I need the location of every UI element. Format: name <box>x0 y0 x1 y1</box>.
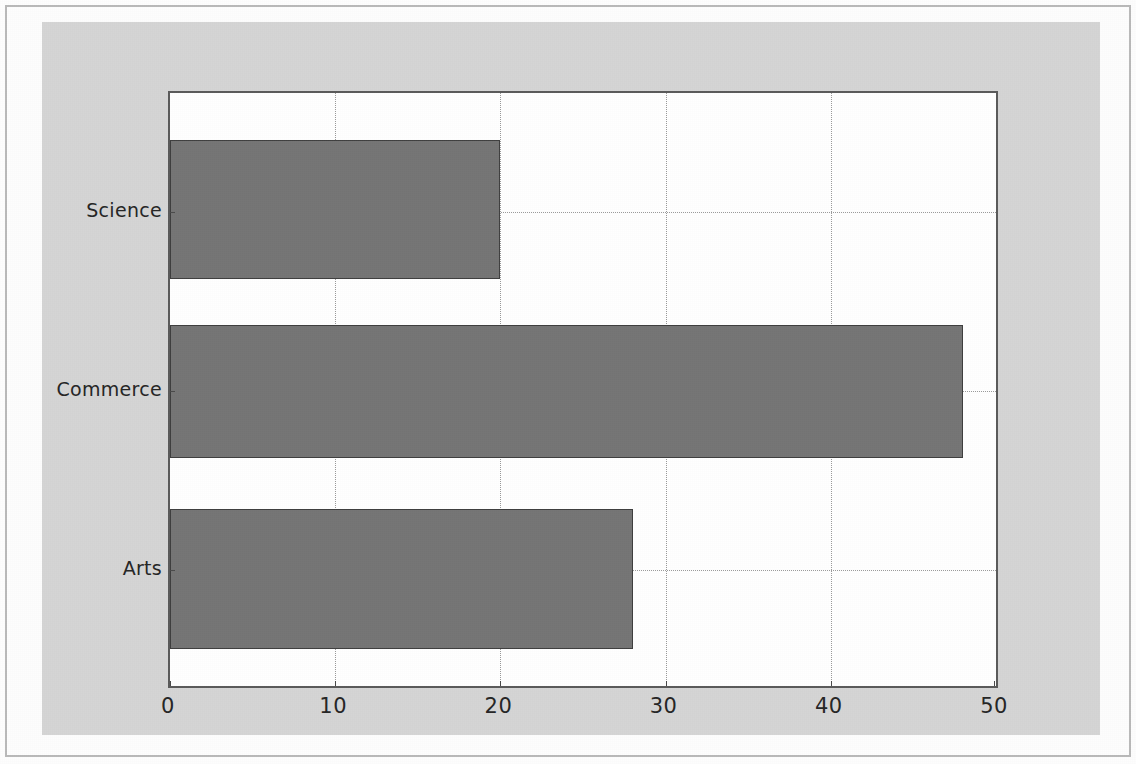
ytick-label-commerce: Commerce <box>56 378 162 400</box>
bar-arts <box>170 509 633 649</box>
xtick-label-10: 10 <box>319 694 347 718</box>
chart-figure: 0 10 20 30 40 50 Science Commerce Arts <box>42 22 1100 735</box>
xtick-label-50: 50 <box>980 694 1008 718</box>
xtick-mark-0 <box>170 681 171 686</box>
scanned-page: 0 10 20 30 40 50 Science Commerce Arts <box>0 0 1136 764</box>
xtick-label-30: 30 <box>650 694 678 718</box>
plot-area <box>168 91 998 688</box>
xtick-label-20: 20 <box>485 694 513 718</box>
xtick-mark-20 <box>500 681 501 686</box>
xtick-label-0: 0 <box>161 694 175 718</box>
ytick-mark-arts <box>170 570 175 571</box>
ytick-mark-science <box>170 212 175 213</box>
ytick-mark-commerce <box>170 391 175 392</box>
xtick-label-40: 40 <box>815 694 843 718</box>
bar-science <box>170 140 500 279</box>
bar-commerce <box>170 325 963 458</box>
xtick-mark-30 <box>666 681 667 686</box>
xtick-mark-50 <box>994 681 995 686</box>
xtick-mark-10 <box>335 681 336 686</box>
ytick-label-science: Science <box>86 199 162 221</box>
xtick-mark-40 <box>831 681 832 686</box>
ytick-label-arts: Arts <box>123 557 162 579</box>
